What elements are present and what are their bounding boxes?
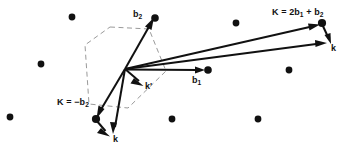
label-k-prime: k' <box>145 82 152 91</box>
vector-b2 <box>125 18 154 70</box>
label-K-lower: K = −b2 <box>57 98 89 107</box>
label-b2: b2 <box>133 10 142 19</box>
reciprocal-lattice-figure: b2 b1 k' k k K = 2b1 + b2 K = −b2 <box>0 0 345 147</box>
figure-canvas <box>0 0 345 147</box>
lattice-points <box>7 14 327 124</box>
vector-k-scattered <box>110 69 125 134</box>
lattice-dot <box>169 116 176 123</box>
lattice-dot <box>286 67 293 74</box>
label-K-upper: K = 2b1 + b2 <box>272 8 324 17</box>
lattice-dot <box>151 14 159 22</box>
lattice-dot <box>92 115 100 123</box>
lattice-dot <box>7 114 14 121</box>
lattice-dot <box>255 116 262 123</box>
vector-k-prime <box>125 69 144 86</box>
vector-K-upper-closure <box>322 24 331 44</box>
label-k-scattered: k <box>113 135 118 144</box>
lattice-dot <box>233 20 240 27</box>
label-k-incident: k <box>331 44 336 53</box>
vector-K-upper <box>125 24 320 70</box>
lattice-dot <box>38 61 45 68</box>
lattice-dot <box>69 14 76 21</box>
label-b1: b1 <box>192 76 201 85</box>
lattice-dot <box>318 19 326 27</box>
lattice-dot <box>204 66 212 74</box>
